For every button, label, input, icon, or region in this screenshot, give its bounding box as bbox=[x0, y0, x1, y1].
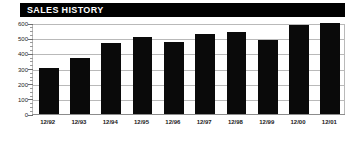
y-axis-minor-tick bbox=[30, 50, 33, 51]
y-axis-tick-label: 500 bbox=[2, 36, 28, 42]
y-axis-minor-tick bbox=[30, 103, 33, 104]
page-title: SALES HISTORY bbox=[20, 6, 104, 15]
y-axis-minor-tick bbox=[30, 31, 33, 32]
x-axis-tick-label: 12/99 bbox=[251, 119, 282, 125]
y-axis-tick bbox=[28, 39, 33, 40]
y-axis-tick-label-holder: 300 bbox=[0, 67, 28, 73]
bar-12-95 bbox=[133, 37, 153, 114]
bar-12-99 bbox=[258, 40, 278, 114]
plot-area bbox=[33, 25, 344, 114]
y-axis-minor-tick bbox=[30, 92, 33, 93]
y-axis-minor-tick bbox=[30, 61, 33, 62]
y-axis-tick-label-holder: 0 bbox=[0, 112, 28, 118]
y-axis-tick-label: 600 bbox=[2, 21, 28, 27]
y-axis-tick-label: 300 bbox=[2, 67, 28, 73]
y-axis-tick-label-holder: 100 bbox=[0, 97, 28, 103]
y-axis-tick-label-holder: 500 bbox=[0, 36, 28, 42]
y-axis-tick-label-holder: 600 bbox=[0, 21, 28, 27]
x-axis-tick-label: 12/98 bbox=[220, 119, 251, 125]
bar-12-92 bbox=[39, 68, 59, 114]
y-axis-tick bbox=[28, 69, 33, 70]
y-axis-tick-label: 100 bbox=[2, 97, 28, 103]
x-axis-tick-label: 12/92 bbox=[32, 119, 63, 125]
bar-12-96 bbox=[164, 42, 184, 114]
y-axis-minor-tick bbox=[30, 80, 33, 81]
sales-history-chart-panel: SALES HISTORY 12/9212/9312/9412/9512/961… bbox=[0, 0, 360, 147]
y-axis-tick-label: 0 bbox=[2, 112, 28, 118]
y-axis-minor-tick bbox=[30, 42, 33, 43]
y-axis-tick bbox=[28, 99, 33, 100]
bar-12-93 bbox=[70, 58, 90, 114]
y-axis-minor-tick bbox=[30, 46, 33, 47]
bar-12-94 bbox=[101, 43, 121, 114]
chart-plot-frame bbox=[32, 24, 345, 115]
y-axis-minor-tick bbox=[30, 77, 33, 78]
y-axis-tick bbox=[28, 24, 33, 25]
x-axis-tick-label: 12/94 bbox=[95, 119, 126, 125]
y-axis-minor-tick bbox=[30, 58, 33, 59]
x-axis-line bbox=[32, 114, 345, 115]
y-axis-tick-label: 200 bbox=[2, 82, 28, 88]
y-axis-tick-label-holder: 400 bbox=[0, 51, 28, 57]
y-axis-tick-label: 400 bbox=[2, 51, 28, 57]
bar-12-97 bbox=[195, 34, 215, 114]
x-axis-tick-label: 12/00 bbox=[282, 119, 313, 125]
y-axis-minor-tick bbox=[30, 96, 33, 97]
bar-12-01 bbox=[320, 23, 340, 114]
x-axis-tick-label: 12/97 bbox=[189, 119, 220, 125]
y-axis-minor-tick bbox=[30, 111, 33, 112]
y-axis-minor-tick bbox=[30, 65, 33, 66]
y-axis-tick bbox=[28, 115, 33, 116]
y-axis-minor-tick bbox=[30, 27, 33, 28]
bar-12-00 bbox=[289, 25, 309, 114]
bar-12-98 bbox=[227, 32, 247, 114]
chart-title-banner: SALES HISTORY bbox=[20, 3, 345, 17]
x-axis-tick-label: 12/96 bbox=[157, 119, 188, 125]
x-axis-tick-label: 12/93 bbox=[63, 119, 94, 125]
y-axis-tick-label-holder: 200 bbox=[0, 82, 28, 88]
y-axis-minor-tick bbox=[30, 88, 33, 89]
y-axis-tick bbox=[28, 54, 33, 55]
y-axis-minor-tick bbox=[30, 107, 33, 108]
y-axis-tick bbox=[28, 84, 33, 85]
x-axis-tick-label: 12/01 bbox=[314, 119, 345, 125]
y-axis-minor-tick bbox=[30, 35, 33, 36]
y-axis-minor-tick bbox=[30, 73, 33, 74]
x-axis-tick-label: 12/95 bbox=[126, 119, 157, 125]
